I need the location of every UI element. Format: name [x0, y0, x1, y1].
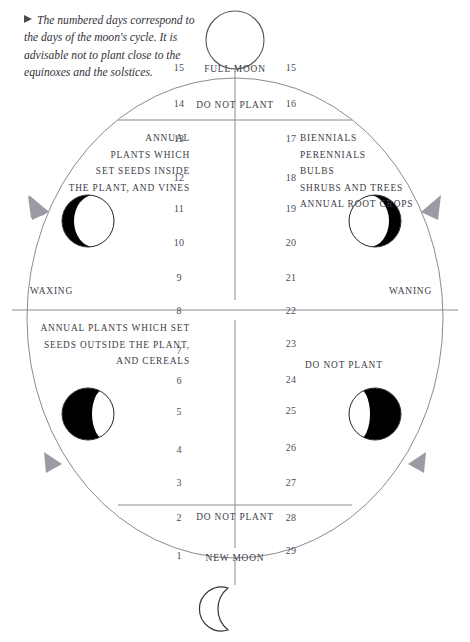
- top-right-line-4: SHRUBS AND TREES: [300, 180, 470, 197]
- day-number-right-28: 28: [280, 512, 302, 523]
- day-number-left-4: 4: [168, 444, 190, 455]
- do-not-plant-bottom-label: DO NOT PLANT: [185, 512, 285, 522]
- do-not-plant-top-label: DO NOT PLANT: [185, 100, 285, 110]
- waning-arrow-lower-right-icon: [408, 452, 426, 473]
- new-moon-icon: [199, 587, 228, 631]
- day-number-right-25: 25: [280, 405, 302, 416]
- bottom-left-line-1: ANNUAL PLANTS WHICH SET: [14, 320, 190, 337]
- day-number-left-1: 1: [168, 550, 190, 561]
- top-left-line-3: SET SEEDS INSIDE: [20, 163, 190, 180]
- day-number-right-15: 15: [280, 62, 302, 73]
- waxing-label: WAXING: [30, 286, 73, 296]
- day-number-left-13: 13: [168, 133, 190, 144]
- moon-planting-cycle-diagram: The numbered days correspond to the days…: [0, 0, 470, 642]
- day-number-right-21: 21: [280, 272, 302, 283]
- day-number-right-29: 29: [280, 545, 302, 556]
- waxing-crescent-moon-icon: [62, 388, 120, 440]
- day-number-left-9: 9: [168, 272, 190, 283]
- full-moon-label: FULL MOON: [185, 64, 285, 74]
- day-number-right-26: 26: [280, 442, 302, 453]
- day-number-left-6: 6: [168, 375, 190, 386]
- day-number-right-18: 18: [280, 172, 302, 183]
- day-number-left-7: 7: [168, 345, 190, 356]
- day-number-right-22: 22: [280, 305, 302, 316]
- top-left-line-2: PLANTS WHICH: [20, 147, 190, 164]
- day-number-right-17: 17: [280, 133, 302, 144]
- waxing-arrow-lower-left-icon: [44, 452, 62, 473]
- top-left-quadrant-text: ANNUAL PLANTS WHICH SET SEEDS INSIDE THE…: [20, 130, 190, 196]
- triangle-bullet-icon: [24, 15, 32, 23]
- day-number-left-10: 10: [168, 237, 190, 248]
- top-right-line-3: BULBS: [300, 163, 470, 180]
- day-number-left-5: 5: [168, 406, 190, 417]
- full-moon-icon: [206, 11, 264, 69]
- day-number-left-15: 15: [168, 62, 190, 73]
- do-not-plant-right-label: DO NOT PLANT: [305, 360, 383, 370]
- top-right-line-2: PERENNIALS: [300, 147, 470, 164]
- top-right-line-1: BIENNIALS: [300, 130, 470, 147]
- day-number-left-12: 12: [168, 172, 190, 183]
- top-left-line-1: ANNUAL: [20, 130, 190, 147]
- day-number-left-2: 2: [168, 512, 190, 523]
- waxing-arrow-upper-left-icon-b: [29, 195, 49, 220]
- top-left-line-4: THE PLANT, AND VINES: [20, 180, 190, 197]
- bottom-left-line-2: SEEDS OUTSIDE THE PLANT,: [14, 337, 190, 354]
- waning-label: WANING: [389, 286, 432, 296]
- day-number-left-3: 3: [168, 477, 190, 488]
- day-number-left-14: 14: [168, 98, 190, 109]
- new-moon-label: NEW MOON: [185, 553, 285, 563]
- day-number-right-20: 20: [280, 237, 302, 248]
- day-number-right-23: 23: [280, 338, 302, 349]
- day-number-right-24: 24: [280, 374, 302, 385]
- waning-crescent-moon-icon: [346, 388, 401, 440]
- bottom-left-line-3: AND CEREALS: [14, 353, 190, 370]
- day-number-right-19: 19: [280, 203, 302, 214]
- day-number-left-11: 11: [168, 203, 190, 214]
- day-number-right-16: 16: [280, 98, 302, 109]
- top-right-line-5: ANNUAL ROOT CROPS: [300, 196, 470, 213]
- day-number-left-8: 8: [168, 305, 190, 316]
- day-number-right-27: 27: [280, 477, 302, 488]
- bottom-left-quadrant-text: ANNUAL PLANTS WHICH SET SEEDS OUTSIDE TH…: [14, 320, 190, 370]
- top-right-quadrant-text: BIENNIALS PERENNIALS BULBS SHRUBS AND TR…: [300, 130, 470, 213]
